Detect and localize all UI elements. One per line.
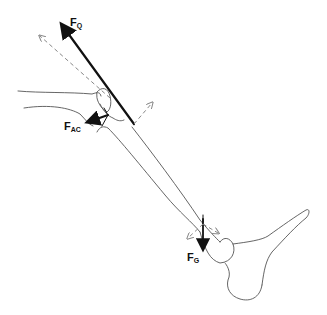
quadriceps-force-label: FQ [70, 16, 83, 30]
tibia-front-outline [132, 127, 220, 242]
heel-outline [225, 263, 262, 300]
thigh-upper-outline [18, 91, 101, 96]
ankle-outline [200, 232, 234, 263]
patellar-component-arrow [134, 103, 152, 124]
articular-contact-force-label: FAC [64, 120, 81, 133]
leg-force-diagram: FQ FAC FG [0, 0, 327, 315]
quadriceps-component-arrow [40, 36, 110, 98]
foot-top-outline [233, 210, 309, 285]
thigh-lower-outline [24, 106, 93, 126]
tibia-back-outline [97, 127, 200, 232]
quadriceps-force-arrow [62, 25, 134, 124]
gravity-force-label: FG [187, 251, 200, 264]
